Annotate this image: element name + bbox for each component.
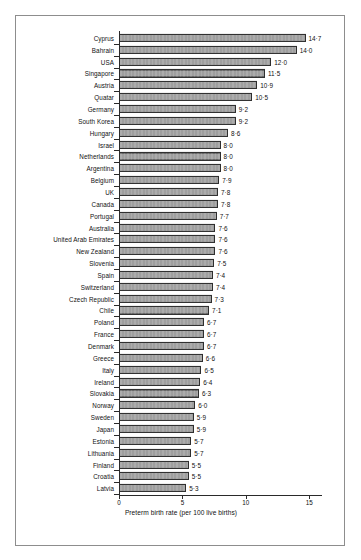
category-label: Poland (94, 319, 114, 326)
bar-row: Switzerland7·4 (16, 281, 346, 293)
category-label: Japan (97, 425, 114, 432)
category-label: Italy (102, 366, 114, 373)
bar-row: Netherlands8·0 (16, 151, 346, 163)
bar-value-label: 7·9 (222, 177, 231, 184)
bar (119, 164, 221, 172)
bar-value-label: 9·2 (239, 106, 248, 113)
bar (119, 259, 214, 267)
bar-value-label: 14·0 (300, 46, 313, 53)
bar-value-label: 6·3 (202, 390, 211, 397)
category-label: Czech Republic (69, 295, 114, 302)
bar-value-label: 12·0 (274, 58, 287, 65)
bar-value-label: 5·7 (194, 437, 203, 444)
bar-row: Slovakia6·3 (16, 388, 346, 400)
bar-row: Croatia5·5 (16, 470, 346, 482)
bar-value-label: 7·5 (217, 260, 226, 267)
bar-value-label: 6·4 (203, 378, 212, 385)
bar (119, 354, 203, 362)
category-label: Slovakia (90, 390, 114, 397)
figure-panel: Cyprus14·7Bahrain14·0USA12·0Singapore11·… (15, 15, 345, 546)
bar-value-label: 8·0 (224, 141, 233, 148)
bar (119, 176, 219, 184)
bar-value-label: 6·0 (198, 402, 207, 409)
bar-row: France6·7 (16, 328, 346, 340)
bar (119, 484, 186, 492)
bar (119, 449, 191, 457)
bar-value-label: 6·7 (207, 319, 216, 326)
category-label: Estonia (93, 437, 114, 444)
category-label: Slovenia (89, 260, 114, 267)
bar (119, 34, 306, 42)
category-label: Switzerland (81, 283, 114, 290)
bar (119, 330, 204, 338)
bar-value-label: 5·5 (192, 461, 201, 468)
category-label: Cyprus (94, 34, 114, 41)
bar-value-label: 5·9 (197, 414, 206, 421)
bar-row: Canada7·8 (16, 198, 346, 210)
category-label: USA (101, 58, 114, 65)
bar (119, 437, 191, 445)
bar (119, 46, 297, 54)
bar (119, 472, 189, 480)
bar (119, 152, 221, 160)
bar (119, 235, 215, 243)
bar (119, 58, 271, 66)
bar (119, 81, 257, 89)
bar-row: Quatar10·5 (16, 91, 346, 103)
bar-row: Norway6·0 (16, 399, 346, 411)
category-label: Norway (92, 402, 114, 409)
bar-row: Singapore11·5 (16, 68, 346, 80)
category-label: Latvia (97, 485, 114, 492)
bar-value-label: 8·0 (224, 153, 233, 160)
category-label: United Arab Emirates (53, 236, 114, 243)
bar-value-label: 7·8 (221, 200, 230, 207)
bar-value-label: 6·7 (207, 331, 216, 338)
bar (119, 318, 204, 326)
category-label: Argentina (86, 165, 114, 172)
category-label: Austria (94, 82, 114, 89)
bar-value-label: 7·4 (216, 271, 225, 278)
bar (119, 200, 218, 208)
bar (119, 283, 213, 291)
bar (119, 129, 228, 137)
bar-row: Slovenia7·5 (16, 257, 346, 269)
category-label: Hungary (90, 129, 114, 136)
bar-chart: Cyprus14·7Bahrain14·0USA12·0Singapore11·… (16, 16, 346, 547)
bar-value-label: 7·6 (218, 236, 227, 243)
bar-value-label: 6·5 (204, 366, 213, 373)
bar-row: Japan5·9 (16, 423, 346, 435)
bar-value-label: 8·6 (231, 129, 240, 136)
bar-value-label: 7·4 (216, 283, 225, 290)
bar-row: Lithuania5·7 (16, 447, 346, 459)
category-label: Bahrain (92, 46, 114, 53)
bar-value-label: 10·9 (260, 82, 273, 89)
bar-value-label: 7·6 (218, 224, 227, 231)
x-axis-tick-label: 5 (181, 499, 185, 506)
bar (119, 425, 194, 433)
category-label: South Korea (78, 117, 114, 124)
bar-value-label: 6·6 (206, 354, 215, 361)
bar-row: Israel8·0 (16, 139, 346, 151)
category-label: Quatar (94, 94, 114, 101)
bar-row: Denmark6·7 (16, 340, 346, 352)
category-label: Finland (93, 461, 114, 468)
category-label: Singapore (85, 70, 114, 77)
bar (119, 366, 201, 374)
bar-row: Austria10·9 (16, 79, 346, 91)
bar-row: Sweden5·9 (16, 411, 346, 423)
bar-value-label: 14·7 (309, 34, 322, 41)
bar (119, 93, 252, 101)
category-label: Australia (89, 224, 114, 231)
category-label: Israel (98, 141, 114, 148)
bar-row: Hungary8·6 (16, 127, 346, 139)
bar-row: Portugal7·7 (16, 210, 346, 222)
category-label: Chile (99, 307, 114, 314)
bar (119, 271, 213, 279)
category-label: Spain (98, 271, 114, 278)
category-label: Germany (88, 106, 114, 113)
bar (119, 69, 265, 77)
bar-value-label: 7·8 (221, 188, 230, 195)
bar-value-label: 7·6 (218, 248, 227, 255)
bar-row: Finland5·5 (16, 459, 346, 471)
bar-row: Chile7·1 (16, 305, 346, 317)
